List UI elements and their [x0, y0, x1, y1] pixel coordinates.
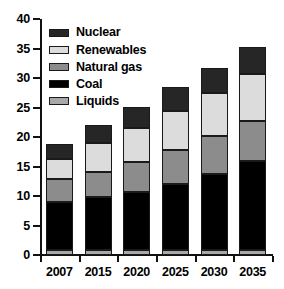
bar-segment-coal [123, 192, 150, 250]
bar-segment-liquids [85, 250, 112, 255]
y-axis-tick-label: 20 [0, 131, 30, 144]
bar-segment-natural-gas [123, 162, 150, 192]
x-axis-tick [40, 256, 42, 262]
y-axis-tick [33, 166, 40, 168]
y-axis-tick-label: 0 [0, 249, 30, 262]
legend-item-coal: Coal [49, 76, 169, 93]
x-axis-tick [79, 256, 81, 262]
bar-segment-nuclear [201, 68, 228, 93]
bar-segment-renewables [162, 111, 189, 150]
legend-swatch-icon [49, 29, 69, 37]
legend-label: Renewables [76, 44, 146, 57]
bar-segment-coal [162, 184, 189, 250]
bar-segment-renewables [201, 93, 228, 136]
legend-item-natural-gas: Natural gas [49, 58, 169, 75]
y-axis-tick [33, 225, 40, 227]
legend-swatch-icon [49, 63, 69, 71]
y-axis-tick [33, 18, 40, 20]
legend-item-liquids: Liquids [49, 93, 169, 110]
stacked-bar-chart: 0510152025303540 20072015202020252030203… [0, 0, 284, 289]
y-axis-tick-label: 35 [0, 43, 30, 56]
bar-segment-liquids [239, 250, 266, 255]
bar-segment-natural-gas [85, 172, 112, 197]
bar-segment-renewables [123, 128, 150, 162]
y-axis-tick [33, 77, 40, 79]
chart-legend: NuclearRenewablesNatural gasCoalLiquids [49, 24, 169, 110]
x-axis-tick [233, 256, 235, 262]
bar-2030 [201, 19, 228, 255]
bar-segment-coal [85, 197, 112, 250]
x-axis-tick-label: 2020 [117, 266, 156, 279]
x-axis-tick [272, 256, 274, 262]
bar-segment-renewables [239, 74, 266, 121]
y-axis-tick [33, 136, 40, 138]
legend-item-renewables: Renewables [49, 41, 169, 58]
bar-segment-nuclear [46, 144, 73, 159]
y-axis-tick-label: 30 [0, 72, 30, 85]
legend-swatch-icon [49, 46, 69, 54]
bar-segment-coal [46, 202, 73, 250]
x-axis-tick-label: 2025 [156, 266, 195, 279]
x-axis-tick-label: 2030 [195, 266, 234, 279]
bar-segment-natural-gas [239, 121, 266, 161]
bar-segment-natural-gas [201, 136, 228, 174]
y-axis-tick [33, 107, 40, 109]
y-axis-tick-label: 10 [0, 190, 30, 203]
bar-segment-renewables [46, 159, 73, 178]
y-axis-tick-label: 25 [0, 102, 30, 115]
x-axis-tick [117, 256, 119, 262]
legend-item-nuclear: Nuclear [49, 24, 169, 41]
x-axis-tick [156, 256, 158, 262]
legend-swatch-icon [49, 97, 69, 105]
bar-segment-nuclear [123, 107, 150, 128]
bar-segment-liquids [123, 250, 150, 255]
bar-segment-liquids [201, 250, 228, 255]
y-axis-tick [33, 48, 40, 50]
x-axis-tick-label: 2035 [233, 266, 272, 279]
y-axis-tick [33, 195, 40, 197]
bar-segment-renewables [85, 143, 112, 172]
x-axis-tick [195, 256, 197, 262]
bar-segment-liquids [162, 250, 189, 255]
bar-segment-nuclear [239, 47, 266, 74]
legend-label: Nuclear [76, 26, 120, 39]
x-axis-tick-label: 2015 [79, 266, 118, 279]
y-axis-tick-label: 15 [0, 161, 30, 174]
legend-label: Coal [76, 78, 102, 91]
x-axis-tick-label: 2007 [40, 266, 79, 279]
bar-segment-nuclear [85, 125, 112, 143]
bar-segment-natural-gas [46, 179, 73, 202]
bar-segment-coal [201, 174, 228, 251]
legend-swatch-icon [49, 80, 69, 88]
bar-2035 [239, 19, 266, 255]
y-axis-tick [33, 254, 40, 256]
legend-label: Natural gas [76, 61, 142, 74]
y-axis-tick-label: 5 [0, 220, 30, 233]
bar-segment-liquids [46, 250, 73, 255]
bar-segment-coal [239, 161, 266, 251]
bar-segment-natural-gas [162, 150, 189, 184]
y-axis-tick-label: 40 [0, 13, 30, 26]
legend-label: Liquids [76, 95, 119, 108]
